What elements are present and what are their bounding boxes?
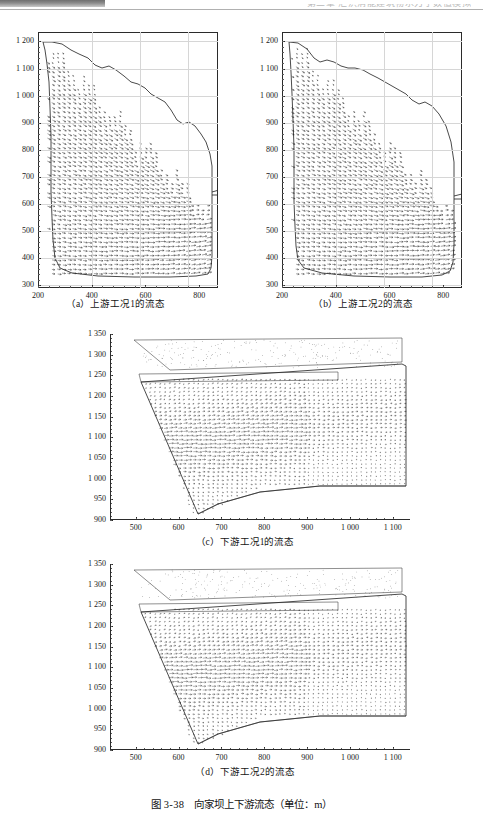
gridline-y-300	[38, 285, 218, 286]
y-minor-tick	[38, 253, 40, 254]
y-minor-tick	[38, 258, 40, 259]
y-tick-label: 1 200	[16, 37, 38, 45]
plot-area-b: 3004005006007008009001 0001 1001 2002004…	[282, 32, 462, 288]
gridline-y-400	[38, 258, 218, 259]
gridline-x-800	[188, 32, 189, 288]
y-tick-label: 950	[94, 725, 110, 733]
x-minor-tick	[325, 286, 326, 288]
y-tick-label: 900	[22, 119, 38, 127]
y-minor-tick	[282, 177, 284, 178]
y-minor-tick	[38, 139, 40, 140]
x-minor-tick	[199, 286, 200, 288]
x-minor-tick	[400, 286, 401, 288]
y-minor-tick	[38, 215, 40, 216]
y-tick-label: 1 000	[88, 475, 110, 483]
y-minor-tick	[38, 117, 40, 118]
y-minor-tick	[282, 242, 284, 243]
gridline-y-1100	[38, 69, 218, 70]
gridline-y-800	[282, 150, 462, 151]
y-minor-tick	[38, 101, 40, 102]
y-minor-tick	[282, 47, 284, 48]
x-minor-tick	[314, 286, 315, 288]
gridline-y-400	[282, 258, 462, 259]
x-minor-tick	[346, 286, 347, 288]
x-minor-tick	[113, 286, 114, 288]
y-minor-tick	[110, 520, 112, 521]
y-minor-tick	[282, 161, 284, 162]
y-tick-label: 700	[266, 173, 282, 181]
header-rule	[0, 9, 483, 10]
x-tick-label: 1 000	[341, 524, 359, 532]
y-tick-label: 300	[266, 281, 282, 289]
y-tick-label: 1 200	[260, 37, 282, 45]
vector-arrows-c	[110, 334, 410, 520]
y-tick-label: 900	[266, 119, 282, 127]
page: 第三章 泄洪消能建筑物水力学数值模拟	[0, 0, 483, 828]
plot-area-d: 9009501 0001 0501 1001 1501 2001 2501 30…	[110, 564, 410, 750]
y-minor-tick	[38, 274, 40, 275]
y-minor-tick	[282, 139, 284, 140]
x-tick-label: 700	[215, 754, 227, 762]
y-tick-label: 1 200	[88, 622, 110, 630]
y-minor-tick	[282, 52, 284, 53]
y-minor-tick	[38, 58, 40, 59]
y-minor-tick	[282, 128, 284, 129]
y-tick-label: 1 150	[88, 643, 110, 651]
vector-arrows-a	[38, 32, 218, 288]
y-tick-label: 400	[22, 254, 38, 262]
x-tick-label: 1 100	[384, 524, 402, 532]
y-tick-label: 1 050	[88, 454, 110, 462]
y-tick-label: 950	[94, 495, 110, 503]
x-minor-tick	[357, 286, 358, 288]
y-tick-label: 300	[22, 281, 38, 289]
y-minor-tick	[38, 209, 40, 210]
y-minor-tick	[38, 193, 40, 194]
x-minor-tick	[336, 286, 337, 288]
vector-arrows-d	[110, 564, 410, 750]
y-minor-tick	[282, 193, 284, 194]
y-minor-tick	[282, 215, 284, 216]
x-minor-tick	[368, 286, 369, 288]
y-minor-tick	[38, 280, 40, 281]
y-minor-tick	[38, 41, 40, 42]
y-minor-tick	[38, 242, 40, 243]
y-minor-tick	[282, 247, 284, 248]
y-minor-tick	[282, 41, 284, 42]
y-minor-tick	[282, 258, 284, 259]
x-minor-tick	[379, 286, 380, 288]
y-minor-tick	[282, 269, 284, 270]
y-minor-tick	[38, 166, 40, 167]
y-minor-tick	[38, 155, 40, 156]
x-minor-tick	[81, 286, 82, 288]
y-minor-tick	[282, 172, 284, 173]
y-minor-tick	[38, 90, 40, 91]
x-minor-tick	[70, 286, 71, 288]
y-minor-tick	[38, 237, 40, 238]
y-minor-tick	[38, 63, 40, 64]
x-tick-label: 800	[258, 754, 270, 762]
y-minor-tick	[38, 231, 40, 232]
x-minor-tick	[38, 286, 39, 288]
x-tick-label: 500	[130, 524, 142, 532]
y-tick-label: 1 250	[88, 371, 110, 379]
x-minor-tick	[92, 286, 93, 288]
x-minor-tick	[178, 286, 179, 288]
figure-panel-b: 3004005006007008009001 0001 1001 2002004…	[252, 26, 474, 316]
gridline-y-900	[282, 123, 462, 124]
figure-panel-d: 9009501 0001 0501 1001 1501 2001 2501 30…	[70, 560, 420, 790]
y-tick-label: 1 300	[88, 351, 110, 359]
y-tick-label: 400	[266, 254, 282, 262]
gridline-x-800	[432, 32, 433, 288]
gridline-y-1000	[38, 96, 218, 97]
y-tick-label: 600	[22, 200, 38, 208]
y-tick-label: 600	[266, 200, 282, 208]
y-minor-tick	[38, 150, 40, 151]
gridline-x-400	[336, 32, 337, 288]
y-tick-label: 800	[266, 146, 282, 154]
gridline-y-300	[282, 285, 462, 286]
y-minor-tick	[282, 226, 284, 227]
y-tick-label: 1 150	[88, 413, 110, 421]
y-minor-tick	[282, 69, 284, 70]
x-minor-tick	[124, 286, 125, 288]
y-minor-tick	[282, 220, 284, 221]
